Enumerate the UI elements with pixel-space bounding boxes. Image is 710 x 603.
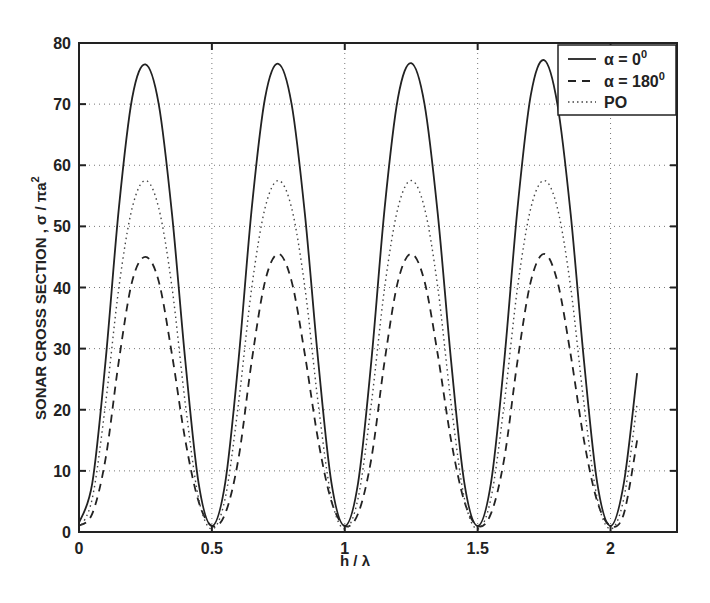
y-tick-label: 50	[53, 218, 71, 235]
legend-label-alpha-180: α = 1800	[604, 70, 665, 90]
y-tick-label: 10	[53, 463, 71, 480]
series-dotted-line	[79, 181, 637, 529]
y-tick-label: 0	[62, 524, 71, 541]
y-tick-label: 20	[53, 402, 71, 419]
legend-label-alpha-0: α = 00	[604, 48, 647, 68]
x-tick-label: 1.5	[467, 540, 489, 557]
y-axis-label: SONAR CROSS SECTION , σ / πa2	[29, 176, 49, 420]
legend: α = 00 α = 1800 PO	[558, 45, 676, 115]
y-tick-label: 70	[53, 96, 71, 113]
y-tick-label: 80	[53, 35, 71, 52]
x-tick-label: 0	[75, 540, 84, 557]
series-solid-line	[79, 60, 637, 526]
y-tick-label: 40	[53, 280, 71, 297]
legend-label-po: PO	[604, 94, 627, 111]
y-tick-label: 60	[53, 157, 71, 174]
y-tick-label: 30	[53, 341, 71, 358]
data-series	[79, 60, 637, 529]
sonar-cross-section-chart: 0102030405060708000.511.52 α = 00 α = 18…	[0, 0, 710, 603]
x-tick-label: 2	[606, 540, 615, 557]
x-tick-label: 0.5	[201, 540, 223, 557]
x-axis-label: h / λ	[340, 552, 371, 569]
